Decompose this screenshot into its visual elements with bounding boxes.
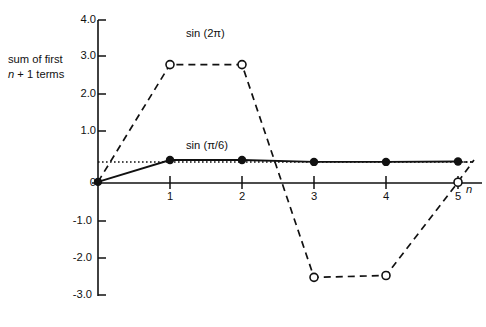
plot-area: [0, 0, 486, 327]
data-point-marker: [238, 61, 246, 69]
data-point-marker: [94, 178, 102, 186]
data-point-marker: [310, 158, 318, 166]
data-point-marker: [382, 158, 390, 166]
data-point-marker: [454, 157, 462, 165]
chart-figure: sum of first n + 1 terms 4.0 3.0 2.0 1.0…: [0, 0, 486, 327]
series-line-sin-pi-6: [98, 160, 458, 182]
data-point-marker: [310, 273, 318, 281]
series-markers-sin-2pi: [166, 61, 462, 282]
data-point-marker: [166, 61, 174, 69]
data-point-marker: [238, 156, 246, 164]
data-point-marker: [454, 178, 462, 186]
data-point-marker: [382, 272, 390, 280]
y-axis-ticks: [98, 20, 106, 295]
series-line-sin-2pi: [98, 65, 458, 278]
data-point-marker: [166, 156, 174, 164]
